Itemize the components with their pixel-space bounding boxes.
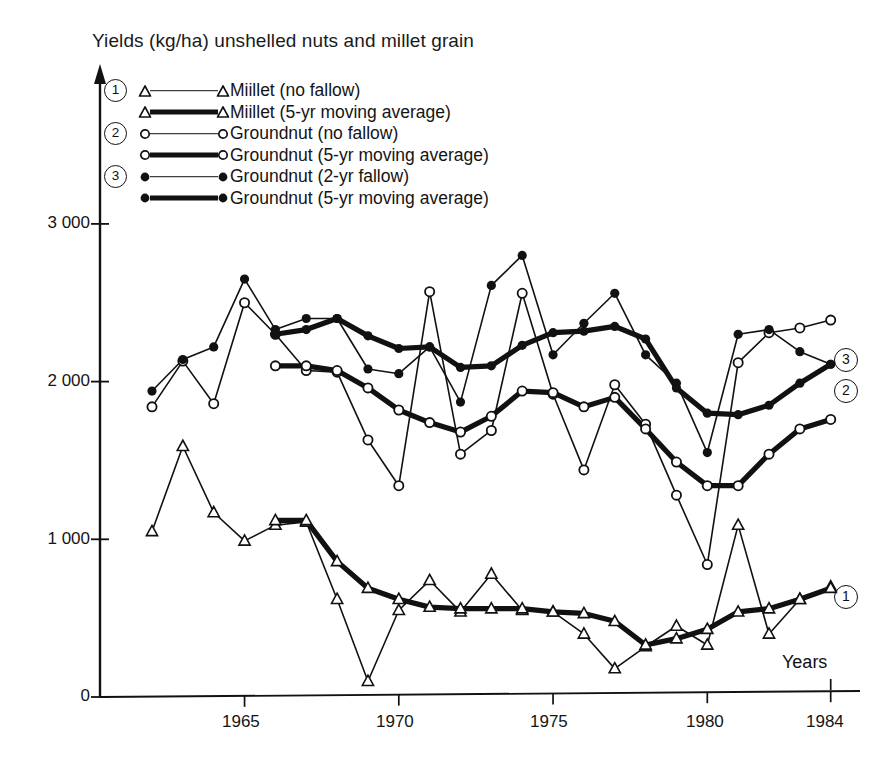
chart-figure: Yields (kg/ha) unshelled nuts and millet… [0, 0, 883, 774]
series-id-groundnut-fallow: 3 [834, 348, 858, 372]
y-tick-3000: 3 000 [14, 213, 90, 233]
x-tick-1970: 1970 [376, 712, 414, 732]
x-tick-1975: 1975 [530, 712, 568, 732]
y-tick-1000: 1 000 [14, 529, 90, 549]
series-id-millet: 1 [834, 585, 858, 609]
y-tick-0: 0 [14, 686, 90, 706]
x-tick-1984: 1984 [806, 712, 844, 732]
y-tick-2000: 2 000 [14, 371, 90, 391]
plot-area [0, 0, 883, 774]
x-tick-1980: 1980 [686, 712, 724, 732]
series-id-groundnut-no-fallow: 2 [834, 379, 858, 403]
x-axis-label: Years [782, 652, 827, 673]
x-tick-1965: 1965 [222, 712, 260, 732]
